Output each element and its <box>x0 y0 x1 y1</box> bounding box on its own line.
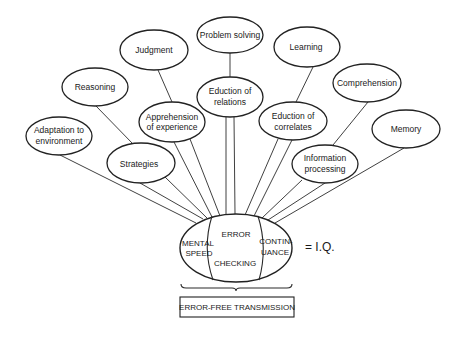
mental-speed-label: MENTAL <box>182 239 214 248</box>
central-ellipse: MENTAL SPEED ERROR CHECKING CONTIN- UANC… <box>180 214 293 282</box>
node-label: Eduction of <box>209 86 252 96</box>
node-reasoning: Reasoning <box>62 68 128 106</box>
connector-info-right <box>268 183 325 220</box>
connector-learning <box>296 67 313 102</box>
iq-equals-label: = I.Q. <box>305 240 335 254</box>
node-memory: Memory <box>372 110 440 148</box>
brace <box>181 284 292 291</box>
node-information-processing: Information processing <box>292 145 358 183</box>
node-comprehension: Comprehension <box>333 64 401 102</box>
error-checking-label: CHECKING <box>214 259 256 268</box>
connector-strategies-left <box>140 183 203 219</box>
error-checking-label: ERROR <box>222 230 251 239</box>
continuance-label: UANCE <box>261 248 289 257</box>
node-label: relations <box>214 97 246 107</box>
node-problem-solving: Problem solving <box>197 17 263 53</box>
node-label: Memory <box>391 124 422 134</box>
connector-judgment <box>158 70 172 102</box>
node-label: Judgment <box>135 45 173 55</box>
node-learning: Learning <box>274 27 340 67</box>
box-label: ERROR-FREE TRANSMISSION <box>179 303 295 312</box>
node-label: Information <box>304 153 347 163</box>
node-label: Strategies <box>120 159 158 169</box>
node-strategies: Strategies <box>107 143 175 183</box>
node-judgment: Judgment <box>120 30 188 70</box>
node-label: Apprehension <box>146 112 199 122</box>
node-label: Reasoning <box>75 82 116 92</box>
connector-reasoning <box>96 106 133 144</box>
node-adaptation-to-environment: Adaptation to environment <box>26 117 92 155</box>
node-label: of experience <box>146 122 197 132</box>
connector-relations-right <box>234 117 235 214</box>
node-label: environment <box>36 136 83 146</box>
error-free-transmission-box: ERROR-FREE TRANSMISSION <box>179 297 295 317</box>
node-eduction-of-correlates: Eduction of correlates <box>259 102 327 140</box>
node-label: Eduction of <box>272 111 315 121</box>
node-label: Adaptation to <box>34 125 84 135</box>
node-label: processing <box>304 164 345 174</box>
node-label: correlates <box>274 122 311 132</box>
connector-info-left <box>262 180 302 218</box>
iq-diagram: Problem solving Judgment Learning Reason… <box>0 0 461 337</box>
connector-comprehension <box>333 102 368 145</box>
node-label: Comprehension <box>337 78 397 88</box>
connector-strategies-right <box>165 177 207 218</box>
node-label: Learning <box>289 42 322 52</box>
continuance-label: CONTIN- <box>259 237 293 246</box>
node-label: Problem solving <box>200 30 261 40</box>
connector-apprehension-right <box>190 139 220 216</box>
mental-speed-label: SPEED <box>185 249 212 258</box>
node-eduction-of-relations: Eduction of relations <box>197 77 263 117</box>
node-apprehension-of-experience: Apprehension of experience <box>139 102 205 142</box>
